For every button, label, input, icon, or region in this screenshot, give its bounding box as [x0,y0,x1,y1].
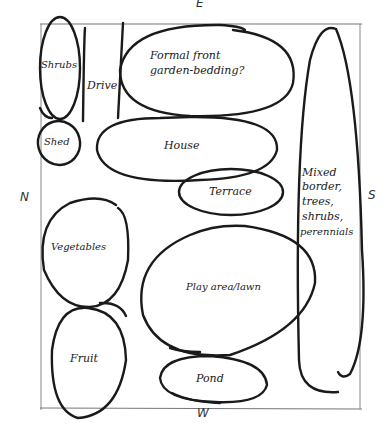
label-play-area-lawn: Play area/lawn [186,280,261,293]
label-shed: Shed [44,135,70,148]
label-mixed-border-5: perennials [300,225,353,238]
compass-south: S [368,188,376,202]
label-vegetables: Vegetables [51,240,106,253]
label-house: House [164,139,199,152]
compass-east: E [196,0,204,10]
label-mixed-border-3: trees, [302,195,334,208]
label-formal-line2: garden-bedding? [150,64,244,77]
label-terrace: Terrace [209,185,252,198]
label-fruit: Fruit [70,352,98,365]
label-formal-line1: Formal front [150,49,220,62]
label-pond: Pond [196,372,224,385]
compass-west: W [197,406,209,420]
label-shrubs: Shrubs [41,58,77,71]
label-mixed-border-1: Mixed [302,166,337,179]
drive-left-edge [83,28,85,121]
label-mixed-border-4: shrubs, [302,210,343,223]
label-drive: Drive [87,79,117,92]
label-mixed-border-2: border, [302,180,342,193]
compass-north: N [20,190,29,204]
